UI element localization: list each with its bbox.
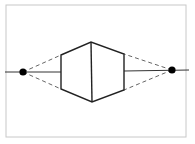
hexagon-center-edge — [91, 42, 92, 102]
dashed-line-left-lower — [23, 72, 61, 89]
diagram-svg — [0, 0, 195, 144]
dashed-line-right-lower — [124, 70, 172, 90]
dashed-line-right-upper — [124, 54, 172, 70]
right-point-dot — [168, 66, 175, 73]
diagram-canvas — [0, 0, 195, 144]
left-point-dot — [19, 68, 26, 75]
dashed-line-left-upper — [23, 55, 61, 72]
axis-line-right — [124, 70, 189, 71]
